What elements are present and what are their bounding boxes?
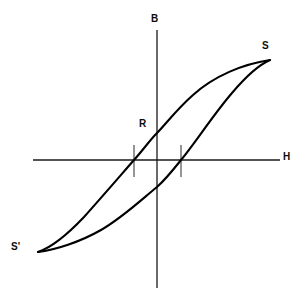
hysteresis-figure: B H S S' R [0, 0, 304, 304]
axis-label-b: B [151, 14, 158, 24]
point-label-s-prime: S' [11, 242, 20, 252]
hysteresis-plot [0, 0, 304, 304]
axis-label-h: H [283, 152, 290, 162]
point-label-r: R [139, 119, 146, 129]
hysteresis-lower-branch [38, 60, 270, 252]
point-label-s: S [262, 41, 269, 51]
